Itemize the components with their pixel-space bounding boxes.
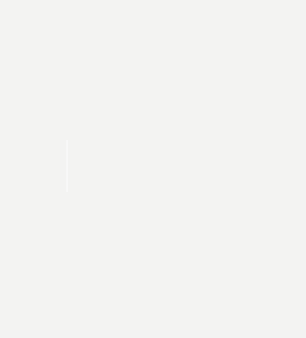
venn-diagram	[0, 0, 306, 338]
